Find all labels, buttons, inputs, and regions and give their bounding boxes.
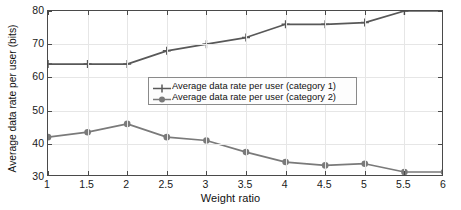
y-tick-label: 70 (32, 37, 44, 49)
data-point-marker (48, 60, 52, 68)
y-axis-tick (48, 77, 52, 78)
x-axis-title: Weight ratio (0, 192, 461, 204)
legend-label-category-2: Average data rate per user (category 2) (172, 91, 336, 102)
x-tick-label: 6 (440, 178, 446, 190)
chart-figure: Average data rate per user (category 1) … (0, 0, 461, 210)
y-tick-label: 30 (32, 170, 44, 182)
x-axis-tick (365, 11, 366, 15)
x-tick-label: 4 (282, 178, 288, 190)
x-axis-tick (127, 171, 128, 175)
x-axis-tick (88, 11, 89, 15)
data-point-marker (441, 169, 443, 176)
y-tick-label: 60 (32, 70, 44, 82)
data-point-marker (48, 134, 51, 141)
y-tick-label: 80 (32, 4, 44, 16)
x-tick-label: 5 (361, 178, 367, 190)
x-axis-tick (286, 171, 287, 175)
x-axis-tick (286, 11, 287, 15)
x-axis-tick (48, 171, 49, 175)
x-tick-label: 5.5 (396, 178, 411, 190)
x-axis-tick (127, 11, 128, 15)
x-tick-label: 2 (123, 178, 129, 190)
x-axis-tick (404, 11, 405, 15)
x-axis-tick (246, 11, 247, 15)
y-axis-tick (438, 11, 442, 12)
y-axis-tick (438, 111, 442, 112)
circle-marker-icon (152, 91, 172, 102)
legend-item-category-1: Average data rate per user (category 1) (152, 80, 353, 91)
x-tick-label: 3.5 (238, 178, 253, 190)
gridline-vertical (88, 11, 89, 175)
y-axis-tick (48, 111, 52, 112)
y-axis-tick (48, 144, 52, 145)
x-axis-tick (246, 171, 247, 175)
y-tick-label: 50 (32, 104, 44, 116)
y-tick-label: 40 (32, 137, 44, 149)
x-axis-tick (167, 171, 168, 175)
gridline-vertical (404, 11, 405, 175)
x-tick-label: 1 (44, 178, 50, 190)
chart-legend: Average data rate per user (category 1) … (148, 77, 357, 105)
plus-marker-icon (152, 80, 172, 91)
y-axis-tick (438, 77, 442, 78)
y-axis-tick (48, 11, 52, 12)
x-tick-label: 1.5 (79, 178, 94, 190)
x-tick-label: 3 (202, 178, 208, 190)
gridline-horizontal (48, 44, 442, 45)
gridline-horizontal (48, 144, 442, 145)
x-tick-label: 4.5 (317, 178, 332, 190)
x-axis-tick (325, 11, 326, 15)
y-axis-tick (438, 144, 442, 145)
x-axis-tick (88, 171, 89, 175)
gridline-vertical (127, 11, 128, 175)
y-axis-tick (48, 44, 52, 45)
x-axis-tick (167, 11, 168, 15)
legend-label-category-1: Average data rate per user (category 1) (172, 80, 336, 91)
x-axis-tick (404, 171, 405, 175)
y-axis-title: Average data rate per user (bits) (7, 14, 18, 184)
y-axis-tick (438, 44, 442, 45)
gridline-horizontal (48, 111, 442, 112)
legend-item-category-2: Average data rate per user (category 2) (152, 91, 353, 102)
x-axis-tick (325, 171, 326, 175)
x-axis-tick (365, 171, 366, 175)
gridline-vertical (365, 11, 366, 175)
x-tick-label: 2.5 (158, 178, 173, 190)
x-axis-tick (206, 11, 207, 15)
x-axis-tick (206, 171, 207, 175)
